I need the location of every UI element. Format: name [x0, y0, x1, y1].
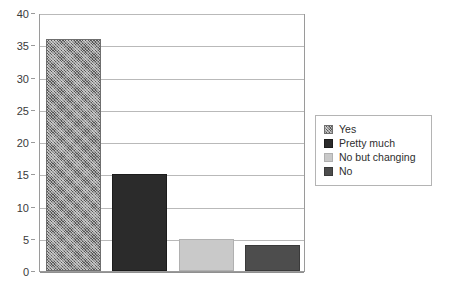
y-tick-mark-30 [31, 78, 35, 79]
legend-item-label: No [339, 166, 352, 177]
y-tick-mark-5 [31, 239, 35, 240]
legend-swatch-icon [324, 139, 333, 148]
bar-no-but-changing [179, 239, 234, 271]
legend-item-label: No but changing [339, 152, 415, 163]
y-tick-label-10: 10 [17, 202, 29, 213]
y-tick-label-40: 40 [17, 9, 29, 20]
y-tick-mark-40 [31, 13, 35, 14]
y-tick-mark-10 [31, 207, 35, 208]
y-tick-label-35: 35 [17, 41, 29, 52]
bar-pretty-much [112, 174, 167, 271]
legend-item-label: Yes [339, 124, 356, 135]
legend-swatch-icon [324, 167, 333, 176]
legend-item-no-but-changing: No but changing [324, 151, 422, 164]
legend-item-no: No [324, 165, 422, 178]
gridline-0 [40, 272, 304, 273]
bars-layer [40, 15, 304, 271]
legend-item-pretty-much: Pretty much [324, 137, 422, 150]
legend-item-yes: Yes [324, 123, 422, 136]
y-tick-mark-35 [31, 45, 35, 46]
legend-swatch-icon [324, 153, 333, 162]
y-tick-label-0: 0 [23, 267, 29, 278]
y-tick-mark-25 [31, 110, 35, 111]
y-tick-label-30: 30 [17, 73, 29, 84]
y-tick-mark-0 [31, 271, 35, 272]
y-tick-label-25: 25 [17, 105, 29, 116]
legend-swatch-icon [324, 125, 333, 134]
bar-chart-figure: 0510152025303540 YesPretty muchNo but ch… [0, 0, 449, 294]
plot-area [39, 14, 305, 272]
y-axis: 0510152025303540 [0, 14, 35, 272]
legend-item-label: Pretty much [339, 138, 395, 149]
y-tick-label-15: 15 [17, 170, 29, 181]
chart-legend: YesPretty muchNo but changingNo [315, 115, 432, 186]
y-tick-mark-15 [31, 174, 35, 175]
y-tick-mark-20 [31, 142, 35, 143]
y-tick-label-20: 20 [17, 138, 29, 149]
bar-no [245, 245, 300, 271]
y-tick-label-5: 5 [23, 234, 29, 245]
bar-yes [46, 39, 101, 271]
